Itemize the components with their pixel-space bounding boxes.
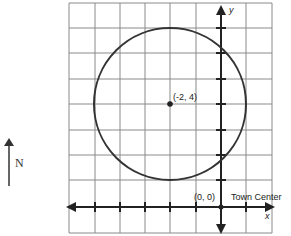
y-axis	[216, 10, 226, 228]
center-point	[167, 101, 173, 107]
coordinate-diagram: (-2, 4) (0, 0) Town Center x y N	[0, 0, 291, 236]
x-axis	[72, 202, 270, 212]
origin-label: (0, 0)	[194, 192, 215, 202]
town-center-label: Town Center	[231, 192, 282, 202]
y-axis-label: y	[228, 5, 234, 15]
north-arrow-icon	[4, 138, 14, 186]
x-axis-label: x	[264, 211, 270, 221]
x-axis-left-arrow-icon	[66, 202, 76, 212]
origin-point	[219, 205, 224, 210]
y-axis-up-arrow-icon	[216, 5, 226, 15]
north-label: N	[15, 156, 24, 170]
center-label: (-2, 4)	[173, 92, 197, 102]
